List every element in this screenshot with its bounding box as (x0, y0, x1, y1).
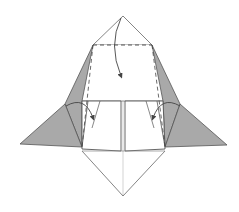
lower-right-panel (125, 101, 165, 151)
top-flap (93, 16, 152, 45)
origami-diagram (0, 0, 239, 212)
central-body (82, 45, 163, 101)
diagram-svg (0, 0, 239, 212)
bottom-flap (82, 151, 165, 196)
